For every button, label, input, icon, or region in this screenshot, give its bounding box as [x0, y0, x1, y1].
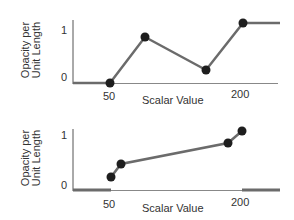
control-point[interactable]: [202, 66, 211, 75]
transfer-function-line: [73, 23, 280, 83]
top-transfer-function-chart: Opacity per Unit Length 1 0 50 200 Scala…: [0, 0, 294, 110]
y-axis-label: Opacity per Unit Length: [20, 15, 42, 85]
y-tick-1: 1: [61, 24, 67, 36]
x-tick-200: 200: [231, 196, 249, 208]
y-tick-0: 0: [61, 179, 67, 191]
y-axis-label-line2: Unit Length: [31, 123, 42, 193]
x-tick-50: 50: [103, 90, 115, 102]
control-point[interactable]: [117, 160, 126, 169]
bottom-transfer-function-chart: Opacity per Unit Length 1 0 50 200 Scala…: [0, 110, 294, 220]
control-point[interactable]: [141, 33, 150, 42]
x-tick-50: 50: [103, 198, 115, 210]
control-point[interactable]: [107, 173, 116, 182]
control-point[interactable]: [106, 79, 115, 88]
y-tick-0: 0: [61, 71, 67, 83]
y-axis-label-line2: Unit Length: [31, 15, 42, 85]
x-axis-label: Scalar Value: [142, 202, 204, 214]
x-tick-200: 200: [231, 88, 249, 100]
control-point[interactable]: [239, 19, 248, 28]
x-axis-label: Scalar Value: [142, 94, 204, 106]
transfer-function-line: [111, 131, 242, 177]
y-tick-1: 1: [61, 129, 67, 141]
control-point[interactable]: [224, 139, 233, 148]
y-axis-label: Opacity per Unit Length: [20, 123, 42, 193]
control-point[interactable]: [238, 127, 247, 136]
